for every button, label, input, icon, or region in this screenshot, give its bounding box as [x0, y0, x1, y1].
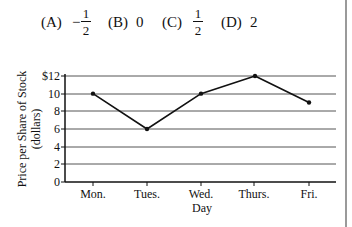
data-point-fri: [307, 100, 311, 104]
x-tick-label: Tues.: [134, 187, 160, 201]
y-tick-label: 0: [54, 175, 60, 189]
x-tick-label: Wed.: [189, 187, 214, 201]
y-axis-label: Price per Share of Stock (dollars): [15, 71, 43, 188]
x-axis-label: Day: [192, 201, 212, 215]
y-tick-label: 8: [54, 104, 60, 118]
data-point-tues: [145, 127, 149, 131]
y-tick-label: 4: [54, 140, 60, 154]
y-tick-labels: $12 10 8 6 4 2 0: [42, 69, 60, 189]
y-axis-label-title: Price per Share of Stock: [15, 71, 29, 188]
y-axis-label-unit: (dollars): [29, 109, 43, 150]
gridlines: [65, 76, 336, 164]
y-tick-label: 10: [48, 87, 60, 101]
price-line: [93, 76, 309, 129]
axes: [65, 74, 336, 182]
x-tick-label: Fri.: [300, 187, 317, 201]
x-tick-labels: Mon. Tues. Wed. Thurs. Fri.: [80, 187, 317, 201]
data-points: [91, 74, 311, 131]
page-border: [345, 0, 347, 227]
x-tick-label: Thurs.: [239, 187, 270, 201]
data-point-thurs: [253, 74, 257, 78]
y-tick-label: 2: [54, 157, 60, 171]
y-tick-label: $12: [42, 69, 60, 83]
data-point-mon: [91, 91, 95, 95]
x-tick-label: Mon.: [80, 187, 106, 201]
stock-price-chart: $12 10 8 6 4 2 0 Mon. Tues. Wed. Thurs. …: [0, 0, 352, 227]
data-point-wed: [199, 91, 203, 95]
y-tick-label: 6: [54, 122, 60, 136]
